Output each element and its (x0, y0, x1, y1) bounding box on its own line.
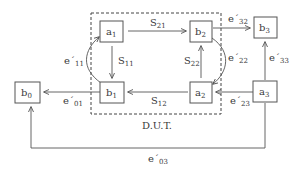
edge-e22 (212, 38, 226, 84)
edge-label-s12: S12 (151, 95, 167, 108)
edge-label-e11: e´11 (64, 55, 84, 68)
edge-label-e03: e´03 (148, 153, 168, 166)
node-b0: b0 (15, 82, 40, 103)
edge-label-e23: e´23 (230, 95, 250, 108)
edge-label-s11: S11 (118, 55, 134, 68)
edge-e11 (86, 37, 101, 83)
node-b3: b3 (254, 17, 277, 38)
edge-label-s22: S22 (184, 55, 200, 68)
edge-label-e01: e´01 (63, 95, 83, 108)
edge-label-e32: e´32 (228, 13, 248, 26)
edge-label-e33: e´33 (269, 52, 289, 65)
node-a2: a2 (190, 82, 212, 103)
node-b2: b2 (190, 21, 212, 42)
dut-label: D.U.T. (142, 120, 172, 131)
edge-label-e22: e´22 (228, 52, 248, 65)
signal-flow-graph: D.U.T. S21 S11 S22 S12 e´11 e´01 e´32 e´… (0, 0, 299, 169)
node-b1: b1 (100, 82, 124, 103)
edge-label-s21: S21 (150, 17, 166, 30)
node-a1: a1 (100, 21, 123, 42)
node-a3: a3 (253, 81, 277, 102)
